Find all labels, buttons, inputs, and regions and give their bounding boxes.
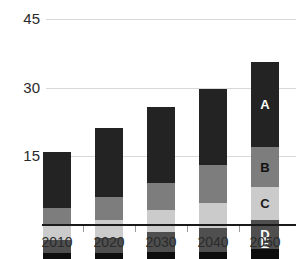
bar-2050[interactable]: A B C D E [251, 62, 279, 259]
bar-2030-segment-c [147, 210, 175, 232]
x-axis-tick-2 [187, 226, 188, 232]
bar-2020-segment-e [95, 253, 123, 259]
stacked-bar-chart: 45 30 15 A B [0, 0, 298, 259]
segment-label-b: B [260, 161, 270, 174]
gridline-45 [46, 19, 296, 20]
bar-2010-segment-b [43, 208, 71, 224]
bar-2030-segment-e [147, 252, 175, 259]
y-axis-label-45: 45 [0, 11, 40, 26]
bar-2040-segment-a [199, 89, 227, 165]
x-axis-label-2010: 2010 [31, 235, 83, 249]
bar-2050-segment-c: C [251, 187, 279, 220]
bar-2010-segment-a [43, 152, 71, 208]
x-axis-label-2050: 2050 [239, 235, 291, 249]
x-axis-label-2020: 2020 [83, 235, 135, 249]
bar-2050-segment-e: E [251, 249, 279, 259]
y-axis-label-15: 15 [0, 148, 40, 163]
bar-2020-segment-a [95, 128, 123, 197]
bar-2020-segment-b [95, 197, 123, 220]
x-axis-label-2030: 2030 [135, 235, 187, 249]
bar-2040-segment-b [199, 165, 227, 203]
x-axis-tick-0 [83, 226, 84, 232]
x-axis-baseline [42, 224, 296, 226]
y-axis-label-30: 30 [0, 80, 40, 95]
segment-label-c: C [260, 197, 270, 210]
bar-2010-segment-e [43, 253, 71, 259]
x-axis-label-2040: 2040 [187, 235, 239, 249]
bar-2030-segment-b [147, 183, 175, 210]
bar-2050-segment-a: A [251, 62, 279, 147]
x-axis-tick-3 [239, 226, 240, 232]
segment-label-a: A [260, 98, 270, 111]
bar-2030-segment-a [147, 107, 175, 183]
bar-2050-segment-b: B [251, 147, 279, 187]
x-axis-tick-1 [135, 226, 136, 232]
bar-2040-segment-e [199, 252, 227, 259]
